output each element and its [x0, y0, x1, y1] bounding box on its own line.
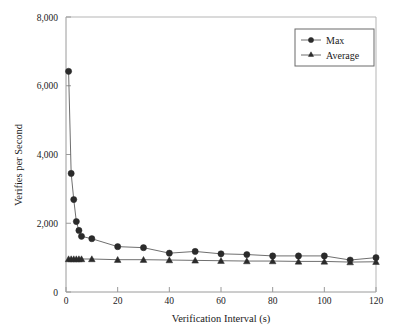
data-point-marker	[65, 68, 71, 74]
data-point-marker	[76, 227, 82, 233]
data-point-marker	[115, 244, 121, 250]
data-series-group	[65, 68, 379, 265]
chart-figure: 02,0004,0006,0008,000 020406080100120 Ve…	[0, 0, 400, 334]
data-point-marker	[166, 250, 172, 256]
legend-label-max: Max	[326, 35, 344, 46]
data-point-marker	[244, 251, 250, 257]
legend-circle-icon	[308, 37, 313, 42]
x-tick-label: 80	[268, 296, 278, 306]
series-line-max	[69, 71, 376, 260]
data-point-marker	[78, 233, 84, 239]
legend-label-average: Average	[326, 50, 360, 61]
x-tick-label: 0	[64, 296, 69, 306]
series-max	[65, 68, 379, 263]
y-tick-label: 2,000	[37, 219, 59, 229]
x-axis-title: Verification Interval (s)	[172, 313, 271, 325]
y-axis-title: Verifies per Second	[13, 123, 24, 206]
legend[interactable]: Max Average	[295, 29, 374, 66]
data-point-marker	[89, 236, 95, 242]
data-point-marker	[192, 248, 198, 254]
data-point-marker	[140, 245, 146, 251]
x-tick-label: 60	[216, 296, 226, 306]
y-tick-label: 0	[53, 288, 58, 298]
data-point-marker	[218, 251, 224, 257]
data-point-marker	[68, 170, 74, 176]
y-tick-label: 4,000	[37, 150, 59, 160]
x-tick-label: 120	[369, 296, 384, 306]
data-point-marker	[73, 218, 79, 224]
y-tick-label: 6,000	[37, 81, 59, 91]
line-chart: 02,0004,0006,0008,000 020406080100120 Ve…	[0, 0, 400, 334]
x-axis-ticks: 020406080100120	[64, 287, 384, 306]
x-tick-label: 40	[165, 296, 175, 306]
x-tick-label: 100	[317, 296, 332, 306]
data-point-marker	[71, 196, 77, 202]
y-tick-label: 8,000	[37, 13, 59, 23]
x-tick-label: 20	[113, 296, 123, 306]
